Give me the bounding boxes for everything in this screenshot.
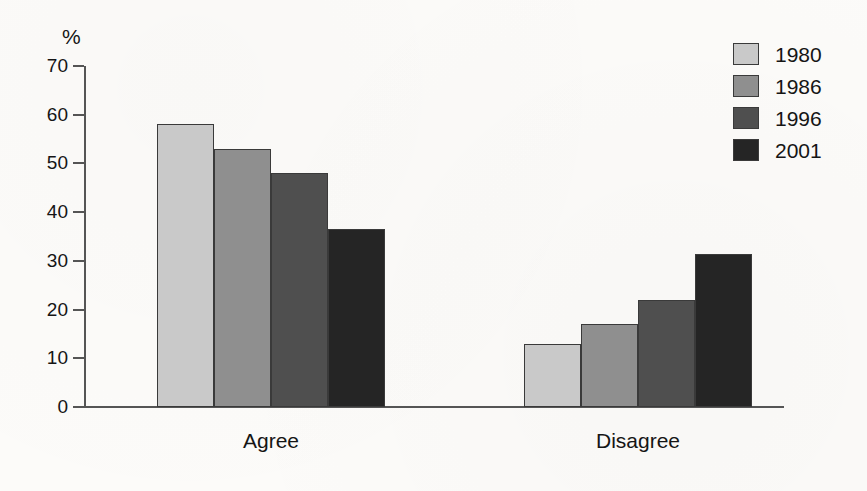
y-axis-tick-label-wrap: 60 [20,105,68,124]
y-axis-tick [73,309,84,311]
y-axis-tick-label-wrap: 20 [20,300,68,319]
y-axis-tick-label: 50 [34,153,68,172]
legend-swatch-1986 [733,75,759,97]
bar-chart: % 706050403020100 AgreeDisagree 19801986… [0,0,867,491]
y-axis-tick [73,114,84,116]
legend-label-1996: 1996 [775,108,822,129]
y-axis-tick [73,65,84,67]
y-axis-tick-label: 30 [34,251,68,270]
plot-area [86,66,784,407]
y-axis-tick [73,260,84,262]
bar-disagree-1980 [524,344,581,407]
y-axis-tick-label: 10 [34,348,68,367]
legend-label-1986: 1986 [775,76,822,97]
y-axis-tick-label-wrap: 50 [20,153,68,172]
category-label-agree: Agree [171,430,371,451]
legend-item-1996: 1996 [733,102,863,134]
legend-item-1980: 1980 [733,38,863,70]
y-axis-tick-label-wrap: 0 [20,397,68,416]
y-axis-tick [73,357,84,359]
y-axis-tick [73,211,84,213]
bar-agree-1980 [157,124,214,407]
legend-swatch-1980 [733,43,759,65]
y-axis-tick-label-wrap: 10 [20,348,68,367]
legend-label-2001: 2001 [775,140,822,161]
y-axis-tick-label: 0 [34,397,68,416]
y-axis-tick [73,406,84,408]
y-axis-tick-label-wrap: 40 [20,202,68,221]
bar-disagree-1996 [638,300,695,407]
y-axis-tick-label: 60 [34,105,68,124]
y-axis-tick-label: 70 [34,56,68,75]
legend-item-1986: 1986 [733,70,863,102]
category-label-disagree: Disagree [538,430,738,451]
bar-agree-2001 [328,229,385,407]
legend-label-1980: 1980 [775,44,822,65]
bar-agree-1996 [271,173,328,407]
bar-agree-1986 [214,149,271,407]
y-axis-tick-label: 40 [34,202,68,221]
y-axis-tick-label-wrap: 70 [20,56,68,75]
legend-swatch-2001 [733,139,759,161]
bar-disagree-1986 [581,324,638,407]
y-axis-tick-label-wrap: 30 [20,251,68,270]
y-axis-tick [73,162,84,164]
bar-disagree-2001 [695,254,752,407]
legend-swatch-1996 [733,107,759,129]
y-axis-unit-label: % [62,26,81,47]
legend-item-2001: 2001 [733,134,863,166]
y-axis-tick-label: 20 [34,300,68,319]
legend: 1980198619962001 [733,38,863,166]
